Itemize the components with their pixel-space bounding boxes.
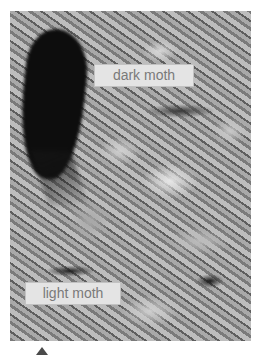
dark-moth-wing-shadow bbox=[31, 151, 89, 206]
triangle-up-icon bbox=[36, 347, 48, 355]
dark-moth-label: dark moth bbox=[94, 64, 194, 87]
light-moth-label: light moth bbox=[25, 282, 121, 305]
